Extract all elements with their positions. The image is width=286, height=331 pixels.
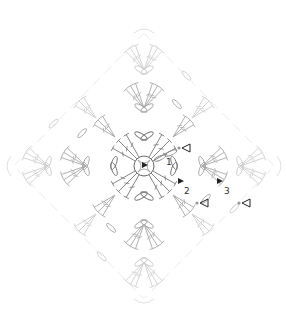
dc-cross: [161, 181, 162, 186]
chain-stitch: [200, 193, 211, 204]
dc-cross: [132, 234, 137, 235]
dc-cross: [138, 54, 141, 58]
chain-stitch: [76, 127, 87, 138]
dc-stitch: [119, 141, 137, 159]
dc-top: [192, 122, 195, 127]
dc-cross: [73, 176, 78, 177]
dc-stitch: [126, 175, 139, 198]
dc-top: [159, 133, 164, 136]
dc-cross: [250, 173, 251, 178]
start-arrow-icon: [178, 178, 184, 184]
dc-cross: [35, 176, 40, 177]
dc-cross: [251, 160, 255, 163]
dc-top: [93, 122, 96, 127]
dc-cross: [165, 175, 166, 180]
dc-top: [174, 181, 177, 186]
outer-corner: [277, 156, 281, 176]
dc-cross: [32, 169, 36, 172]
dc-cross: [203, 218, 204, 223]
dc-cross: [154, 232, 155, 237]
chain-stitch: [105, 222, 116, 233]
dc-top: [183, 115, 188, 118]
dc-top: [100, 115, 105, 118]
dc-cross: [182, 202, 183, 207]
outer-corner: [134, 29, 154, 33]
dc-cross: [177, 125, 182, 126]
dc-top: [62, 150, 65, 155]
dc-cross: [103, 204, 108, 205]
dc-cross: [106, 206, 111, 207]
dc-stitch: [149, 175, 162, 198]
dc-cross: [75, 154, 76, 159]
dc-cross: [147, 273, 150, 277]
dc-cross: [196, 106, 201, 107]
dc-stitch: [151, 173, 169, 191]
dc-top: [192, 205, 195, 210]
slip-stitch-dot: [177, 146, 180, 149]
dc-cross: [132, 272, 137, 273]
round-label-3: 3: [224, 186, 230, 196]
dc-cross: [248, 156, 253, 157]
dc-top: [100, 214, 105, 217]
dc-cross: [213, 160, 217, 163]
slip-stitch-dot: [195, 201, 198, 204]
dc-stitch: [67, 166, 86, 184]
dc-top: [128, 245, 133, 248]
dc-top: [223, 150, 226, 155]
dc-cross: [37, 154, 38, 159]
dc-stitch: [113, 148, 136, 161]
dc-top: [124, 196, 129, 199]
dc-stitch: [29, 148, 48, 166]
dc-top: [81, 233, 86, 236]
dc-cross: [86, 106, 87, 111]
dc-cross: [210, 156, 215, 157]
dc-cross: [199, 108, 204, 109]
dc-stitch: [119, 173, 137, 191]
dc-cross: [151, 97, 156, 98]
dc-top: [155, 245, 160, 248]
dc-top: [223, 177, 226, 182]
dc-top: [62, 177, 65, 182]
dc-cross: [147, 235, 150, 239]
dc-cross: [134, 95, 135, 100]
dc-cross: [154, 270, 155, 275]
end-triangle-icon: [242, 199, 250, 207]
dc-stitch: [149, 135, 162, 158]
dc-top: [24, 177, 27, 182]
dc-cross: [124, 183, 129, 184]
dc-cross: [130, 187, 135, 188]
end-triangle-icon: [182, 144, 190, 152]
dc-cross: [212, 173, 213, 178]
dc-cross: [70, 169, 74, 172]
dc-top: [124, 133, 129, 136]
dc-top: [111, 146, 114, 151]
chain-stitch: [96, 251, 107, 262]
dc-top: [202, 233, 207, 236]
dc-cross: [159, 148, 164, 149]
dc-stitch: [67, 148, 86, 166]
dc-cross: [138, 92, 141, 96]
dc-cross: [105, 125, 106, 130]
dc-top: [159, 196, 164, 199]
outer-corner: [134, 299, 154, 303]
dc-cross: [84, 223, 89, 224]
dc-top: [261, 177, 264, 182]
dc-stitch: [240, 148, 259, 166]
crochet-chart-svg: 123: [0, 0, 286, 331]
dc-stitch: [202, 148, 221, 166]
dc-cross: [153, 145, 158, 146]
dc-cross: [87, 225, 92, 226]
dc-top: [183, 214, 188, 217]
dc-stitch: [29, 166, 48, 184]
dc-cross: [151, 59, 156, 60]
round-label-2: 2: [184, 186, 190, 196]
dc-cross: [180, 127, 185, 128]
dc-stitch: [113, 171, 136, 184]
round-label-1: 1: [166, 157, 172, 167]
dc-stitch: [240, 166, 259, 184]
dc-cross: [123, 152, 124, 157]
outer-corner: [7, 156, 11, 176]
dc-top: [93, 205, 96, 210]
slip-stitch-dot: [237, 201, 240, 204]
dc-cross: [201, 221, 202, 226]
